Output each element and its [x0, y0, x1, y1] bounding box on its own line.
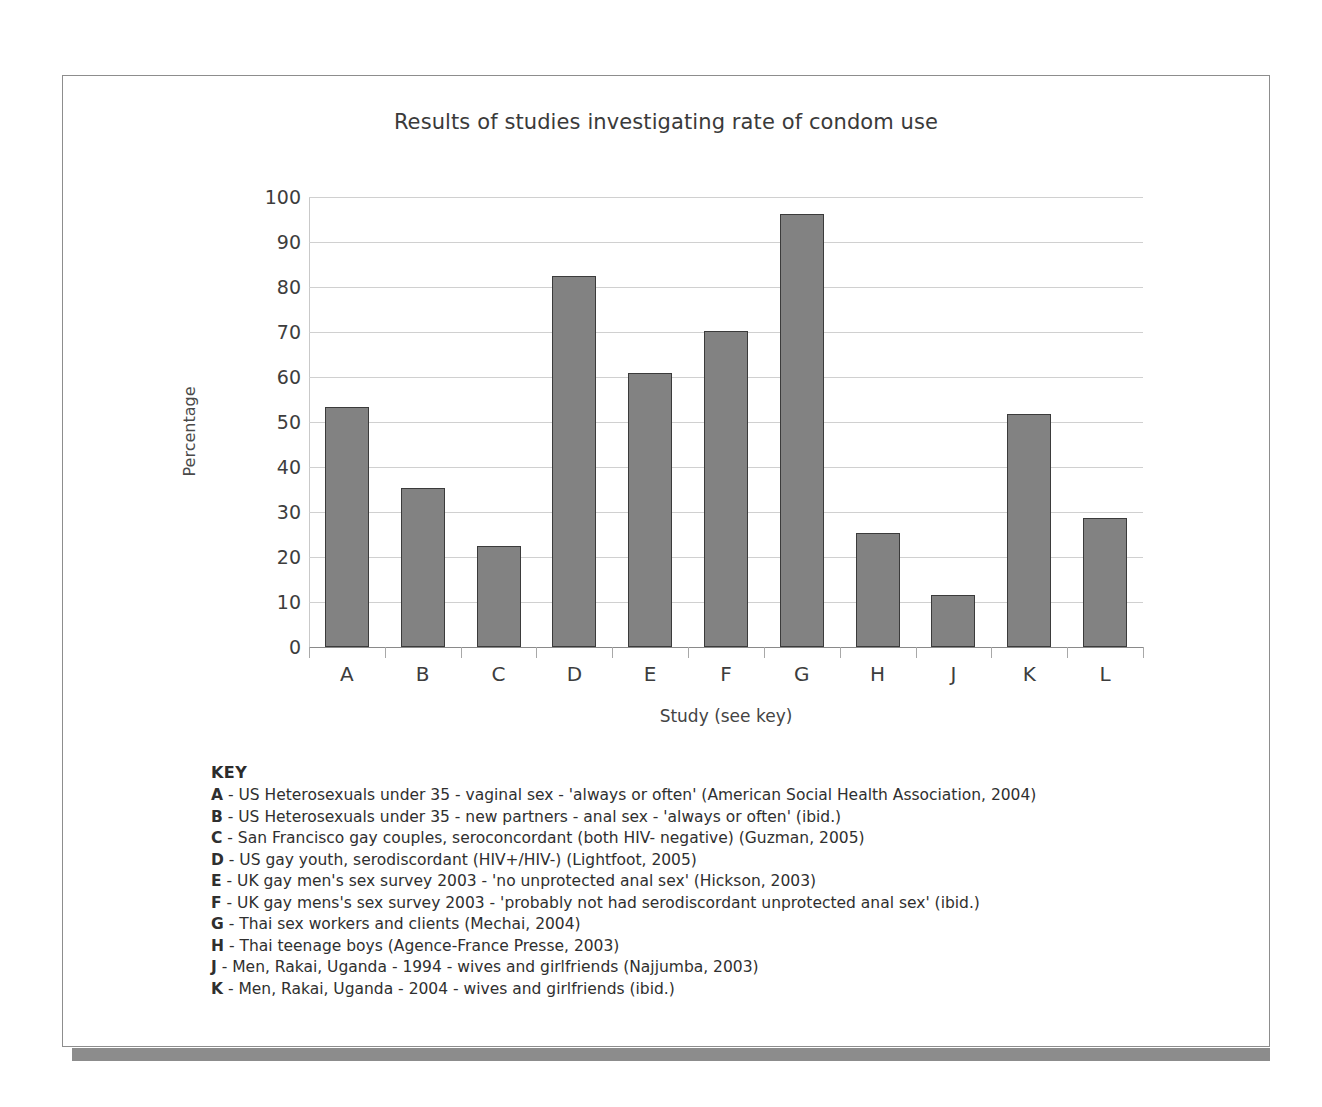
- key-entry-letter: E: [211, 872, 222, 890]
- bar-h: [856, 533, 900, 647]
- key-entry-list: A - US Heterosexuals under 35 - vaginal …: [211, 785, 1251, 1000]
- y-tick-label: 50: [249, 411, 301, 433]
- bar-d: [552, 276, 596, 647]
- y-axis-title: Percentage: [180, 386, 199, 476]
- x-tick-mark: [385, 647, 386, 658]
- plot-area: [309, 197, 1143, 647]
- key-entry-letter: D: [211, 851, 224, 869]
- key-entry-f: F - UK gay mens's sex survey 2003 - 'pro…: [211, 893, 1251, 915]
- y-tick-label: 30: [249, 501, 301, 523]
- bar-b: [401, 488, 445, 647]
- key-entry-letter: F: [211, 894, 222, 912]
- y-tick-label: 0: [249, 636, 301, 658]
- bar-f: [704, 331, 748, 647]
- y-tick-label: 40: [249, 456, 301, 478]
- x-tick-label-f: F: [696, 662, 756, 686]
- bar-j: [931, 595, 975, 647]
- x-tick-mark: [688, 647, 689, 658]
- bar-l: [1083, 518, 1127, 647]
- y-tick-label: 10: [249, 591, 301, 613]
- key-entry-text: - US Heterosexuals under 35 - new partne…: [223, 808, 841, 826]
- x-tick-mark: [840, 647, 841, 658]
- key-entry-a: A - US Heterosexuals under 35 - vaginal …: [211, 785, 1251, 807]
- x-tick-mark: [309, 647, 310, 658]
- gridline: [309, 287, 1143, 288]
- x-tick-label-b: B: [393, 662, 453, 686]
- x-tick-label-l: L: [1075, 662, 1135, 686]
- key-entry-text: - Thai teenage boys (Agence-France Press…: [224, 937, 619, 955]
- x-tick-mark: [764, 647, 765, 658]
- y-tick-label: 80: [249, 276, 301, 298]
- key-entry-letter: G: [211, 915, 224, 933]
- key-entry-text: - San Francisco gay couples, seroconcord…: [222, 829, 864, 847]
- y-tick-label: 70: [249, 321, 301, 343]
- chart-key: KEY A - US Heterosexuals under 35 - vagi…: [211, 763, 1251, 1000]
- x-tick-label-g: G: [772, 662, 832, 686]
- x-tick-mark: [461, 647, 462, 658]
- y-tick-label: 100: [249, 186, 301, 208]
- y-tick-label: 20: [249, 546, 301, 568]
- key-entry-letter: A: [211, 786, 223, 804]
- key-heading: KEY: [211, 763, 1251, 782]
- x-tick-label-a: A: [317, 662, 377, 686]
- key-entry-letter: B: [211, 808, 223, 826]
- key-entry-j: J - Men, Rakai, Uganda - 1994 - wives an…: [211, 957, 1251, 979]
- bar-k: [1007, 414, 1051, 647]
- x-axis-ticks: [309, 647, 1143, 659]
- key-entry-text: - Men, Rakai, Uganda - 2004 - wives and …: [223, 980, 675, 998]
- key-entry-d: D - US gay youth, serodiscordant (HIV+/H…: [211, 850, 1251, 872]
- key-entry-c: C - San Francisco gay couples, seroconco…: [211, 828, 1251, 850]
- x-axis-title: Study (see key): [309, 706, 1143, 726]
- x-tick-mark: [612, 647, 613, 658]
- key-entry-letter: H: [211, 937, 224, 955]
- y-axis-tick-labels: 1009080706050403020100: [239, 197, 301, 647]
- key-entry-text: - Men, Rakai, Uganda - 1994 - wives and …: [217, 958, 759, 976]
- y-tick-label: 60: [249, 366, 301, 388]
- gridline: [309, 242, 1143, 243]
- y-tick-label: 90: [249, 231, 301, 253]
- bar-c: [477, 546, 521, 647]
- x-tick-label-h: H: [848, 662, 908, 686]
- key-entry-text: - Thai sex workers and clients (Mechai, …: [224, 915, 581, 933]
- x-tick-label-d: D: [544, 662, 604, 686]
- key-entry-k: K - Men, Rakai, Uganda - 2004 - wives an…: [211, 979, 1251, 1001]
- x-axis-tick-labels: ABCDEFGHJKL: [309, 662, 1143, 696]
- bar-a: [325, 407, 369, 647]
- key-entry-e: E - UK gay men's sex survey 2003 - 'no u…: [211, 871, 1251, 893]
- x-tick-label-e: E: [620, 662, 680, 686]
- page-shadow-bar: [72, 1048, 1270, 1061]
- key-entry-b: B - US Heterosexuals under 35 - new part…: [211, 807, 1251, 829]
- key-entry-text: - UK gay men's sex survey 2003 - 'no unp…: [222, 872, 816, 890]
- key-entry-h: H - Thai teenage boys (Agence-France Pre…: [211, 936, 1251, 958]
- x-tick-mark: [1143, 647, 1144, 658]
- x-tick-label-j: J: [923, 662, 983, 686]
- bar-g: [780, 214, 824, 647]
- x-tick-label-k: K: [999, 662, 1059, 686]
- x-tick-mark: [991, 647, 992, 658]
- key-entry-text: - UK gay mens's sex survey 2003 - 'proba…: [222, 894, 980, 912]
- scanned-page-frame: Results of studies investigating rate of…: [62, 75, 1270, 1047]
- x-tick-label-c: C: [469, 662, 529, 686]
- x-tick-mark: [916, 647, 917, 658]
- key-entry-letter: K: [211, 980, 223, 998]
- x-tick-mark: [1067, 647, 1068, 658]
- gridline: [309, 197, 1143, 198]
- key-entry-text: - US Heterosexuals under 35 - vaginal se…: [223, 786, 1036, 804]
- key-entry-g: G - Thai sex workers and clients (Mechai…: [211, 914, 1251, 936]
- x-tick-mark: [536, 647, 537, 658]
- key-entry-text: - US gay youth, serodiscordant (HIV+/HIV…: [224, 851, 697, 869]
- bar-e: [628, 373, 672, 647]
- key-entry-letter: C: [211, 829, 222, 847]
